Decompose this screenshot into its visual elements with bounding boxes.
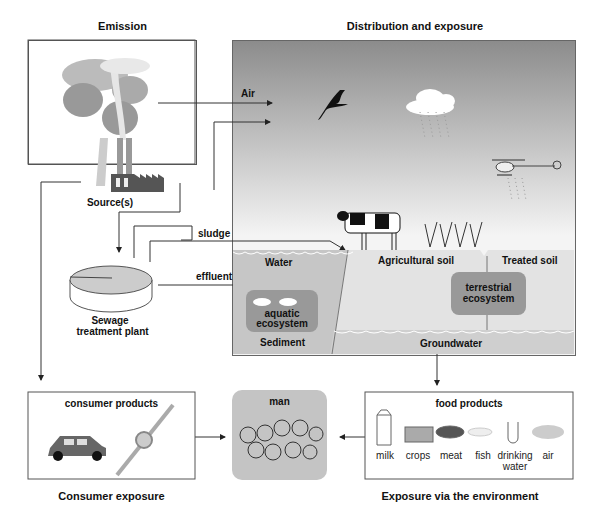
factory-icon	[96, 138, 164, 192]
water-label: Water	[265, 257, 292, 268]
section-title-consumer-exposure: Consumer exposure	[28, 490, 195, 502]
sludge-flow-label: sludge	[198, 228, 230, 239]
meat-icon	[436, 426, 464, 438]
sediment-label: Sediment	[260, 337, 305, 348]
helicopter-icon	[492, 160, 561, 200]
section-title-environment-exposure: Exposure via the environment	[340, 490, 580, 502]
food-item-fish: fish	[472, 450, 494, 461]
smoke-cloud-icon	[62, 58, 150, 140]
rain-cloud-icon	[406, 89, 455, 138]
food-products-title: food products	[365, 398, 573, 409]
fish-icon	[468, 428, 492, 436]
crops-icon	[425, 222, 482, 247]
terrestrial-label-1: terrestrial	[451, 282, 526, 293]
source-label: Source(s)	[80, 197, 140, 208]
food-item-crops: crops	[402, 450, 434, 461]
sewage-plant-icon	[70, 266, 152, 312]
groundwater-label: Groundwater	[420, 338, 482, 349]
man-title: man	[232, 396, 327, 407]
food-item-drinking: drinking	[496, 450, 534, 461]
agricultural-soil-label: Agricultural soil	[378, 255, 454, 266]
terrestrial-label-2: ecosystem	[451, 293, 526, 304]
cow-icon	[337, 211, 400, 250]
sewage-label-2: treatment plant	[70, 326, 155, 337]
food-item-water: water	[496, 461, 534, 472]
air-cloud-icon	[532, 425, 564, 439]
treated-soil-label: Treated soil	[502, 255, 558, 266]
sewage-label-1: Sewage	[80, 315, 140, 326]
eagle-icon	[318, 90, 348, 120]
food-item-air: air	[538, 450, 558, 461]
consumer-products-title: consumer products	[28, 398, 195, 409]
aquatic-label-2: ecosystem	[246, 318, 318, 329]
effluent-flow-label: effluent	[196, 271, 232, 282]
air-flow-label: Air	[241, 88, 255, 99]
bread-icon	[405, 427, 433, 442]
food-item-meat: meat	[436, 450, 466, 461]
food-item-milk: milk	[372, 450, 398, 461]
